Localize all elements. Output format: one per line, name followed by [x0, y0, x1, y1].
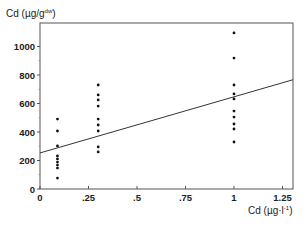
data-point — [56, 167, 59, 170]
data-point — [233, 116, 236, 119]
data-point — [56, 177, 59, 180]
x-tick-label: .75 — [179, 192, 193, 203]
data-point — [97, 118, 100, 121]
data-point — [233, 84, 236, 87]
data-point — [97, 124, 100, 127]
x-tick-label: 1 — [231, 192, 237, 203]
plot-frame — [40, 23, 293, 189]
data-point — [233, 93, 236, 96]
data-point — [233, 141, 236, 144]
y-tick-label: 0 — [30, 184, 35, 195]
data-point — [56, 161, 59, 164]
data-point — [97, 84, 100, 87]
data-point — [56, 164, 59, 167]
x-tick-label: .25 — [82, 192, 96, 203]
y-tick-label: 200 — [19, 155, 35, 166]
y-tick-label: 600 — [19, 98, 35, 109]
data-point — [233, 123, 236, 126]
x-tick-label: 1.25 — [273, 192, 292, 203]
y-tick-label: 1000 — [14, 41, 35, 52]
data-point — [97, 130, 100, 133]
data-point — [233, 32, 236, 35]
data-point — [97, 151, 100, 154]
data-point — [97, 146, 100, 149]
data-point — [56, 158, 59, 161]
plot-border — [40, 23, 293, 189]
data-point — [233, 98, 236, 101]
data-point — [97, 105, 100, 108]
y-axis: 02004006008001000 — [14, 41, 40, 195]
scatter-plot: 02004006008001000 0.25.5.7511.25 — [0, 0, 308, 230]
regression-line — [40, 80, 293, 153]
y-tick-label: 400 — [19, 127, 35, 138]
x-tick-label: 0 — [37, 192, 42, 203]
data-point — [56, 155, 59, 158]
data-point — [56, 145, 59, 148]
data-point — [56, 130, 59, 133]
x-tick-label: .5 — [133, 192, 142, 203]
data-point — [233, 128, 236, 131]
data-point — [97, 94, 100, 97]
data-point — [233, 110, 236, 113]
data-point — [56, 118, 59, 121]
data-point — [233, 57, 236, 60]
data-point — [97, 99, 100, 102]
y-tick-label: 800 — [19, 70, 35, 81]
data-points — [56, 32, 235, 180]
